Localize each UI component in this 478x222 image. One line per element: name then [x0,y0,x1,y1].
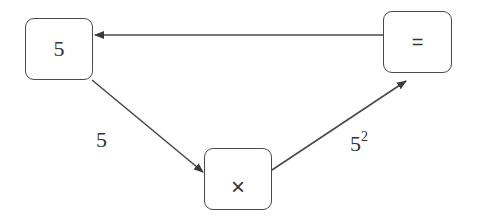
edge-multiply-to-equals [272,81,406,170]
equals-icon: = [412,31,424,54]
node-input-five: 5 [25,18,93,80]
edge-label-base: 5 [350,131,361,156]
edge-label-five-squared: 52 [350,131,368,157]
node-input-label: 5 [54,36,65,62]
node-multiply: × [204,148,272,210]
edge-label-five: 5 [96,127,107,153]
edge-label-exponent: 2 [361,129,368,144]
edge-label-five-text: 5 [96,127,107,152]
multiply-icon: × [231,173,245,201]
node-equals: = [383,11,452,73]
edge-input-to-multiply [92,80,203,172]
